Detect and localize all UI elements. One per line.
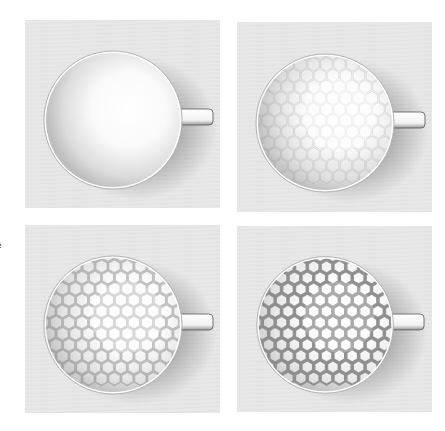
hex-cell bbox=[70, 350, 82, 363]
hex-cell bbox=[57, 260, 69, 274]
hex-cell bbox=[353, 360, 364, 373]
hex-cell bbox=[102, 248, 114, 261]
hex-cell bbox=[244, 305, 255, 318]
hex-cell bbox=[237, 136, 248, 149]
hex-cell bbox=[288, 46, 300, 59]
hex-cell bbox=[379, 114, 391, 127]
hex-cell bbox=[70, 282, 82, 296]
hex-cell bbox=[83, 282, 95, 296]
hex-cell bbox=[237, 159, 248, 172]
hex-cell bbox=[31, 305, 43, 319]
hex-cell bbox=[237, 249, 248, 262]
hex-cell bbox=[334, 35, 346, 48]
hex-cell bbox=[128, 361, 140, 374]
hex-cell bbox=[76, 361, 88, 374]
hex-cell bbox=[96, 237, 108, 250]
hex-cell bbox=[44, 237, 56, 250]
hex-cell bbox=[262, 46, 274, 59]
hex-cell bbox=[353, 69, 365, 82]
hex-cell bbox=[57, 305, 69, 319]
hex-cell bbox=[308, 170, 320, 183]
hex-cell bbox=[301, 69, 313, 82]
hex-cell bbox=[237, 360, 248, 373]
hex-cell bbox=[321, 58, 333, 72]
hex-cell bbox=[282, 103, 294, 117]
cup-panel-faint-hex bbox=[237, 22, 432, 212]
hex-cell bbox=[288, 69, 300, 82]
hex-cell bbox=[237, 271, 248, 284]
hex-cell bbox=[70, 327, 82, 341]
hex-cell bbox=[275, 114, 287, 127]
cup-illustration bbox=[237, 226, 432, 412]
hex-cell bbox=[295, 238, 306, 251]
hex-cell bbox=[25, 293, 36, 306]
hex-cell bbox=[327, 360, 338, 373]
hex-cell bbox=[102, 271, 114, 284]
hex-cell bbox=[288, 159, 300, 172]
hex-cell bbox=[83, 350, 95, 363]
hex-cell bbox=[360, 148, 372, 161]
hex-cell bbox=[115, 361, 127, 374]
hex-cell bbox=[122, 237, 134, 250]
hex-cell bbox=[269, 125, 281, 139]
hex-cell bbox=[321, 372, 332, 385]
hex-cell bbox=[31, 237, 43, 250]
hex-cell bbox=[295, 349, 306, 362]
hex-cell bbox=[37, 361, 49, 374]
hex-cell bbox=[237, 91, 248, 104]
hex-cell bbox=[295, 80, 307, 94]
hex-cell bbox=[89, 271, 101, 284]
hex-cell bbox=[295, 35, 307, 48]
hex-cell bbox=[25, 316, 36, 329]
hex-cell bbox=[37, 316, 49, 329]
hex-cell bbox=[346, 372, 357, 385]
hex-cell bbox=[257, 238, 268, 251]
hex-cell bbox=[314, 46, 326, 59]
hex-cell bbox=[249, 69, 261, 82]
hex-cell bbox=[269, 58, 281, 72]
hex-cell bbox=[263, 249, 274, 262]
hex-cell bbox=[379, 46, 391, 59]
hex-cell bbox=[122, 372, 134, 385]
hex-cell bbox=[269, 260, 280, 273]
hex-cell bbox=[359, 238, 370, 251]
hex-cell bbox=[141, 361, 153, 374]
hex-cell bbox=[372, 238, 383, 251]
hex-cell bbox=[334, 372, 345, 385]
hex-cell bbox=[89, 361, 101, 374]
hex-cell bbox=[282, 148, 294, 161]
hex-cell bbox=[76, 338, 88, 351]
hex-cell bbox=[96, 372, 108, 385]
hex-cell bbox=[295, 148, 307, 161]
hex-cell bbox=[289, 249, 300, 262]
hex-cell bbox=[31, 350, 43, 363]
hex-cell bbox=[301, 136, 313, 149]
hex-cell bbox=[243, 170, 255, 183]
hex-cell bbox=[31, 372, 43, 385]
hex-cell bbox=[57, 237, 69, 250]
hex-cell bbox=[44, 260, 56, 274]
hex-cell bbox=[244, 349, 255, 362]
hex-cell bbox=[301, 159, 313, 172]
hex-cell bbox=[76, 293, 88, 306]
hex-cell bbox=[109, 260, 121, 274]
hex-cell bbox=[257, 260, 268, 273]
hex-cell bbox=[83, 327, 95, 341]
hex-cell bbox=[256, 58, 268, 72]
hex-cell bbox=[366, 249, 377, 262]
hex-cell bbox=[244, 260, 255, 273]
hex-cell bbox=[340, 360, 351, 373]
hex-cell bbox=[102, 361, 114, 374]
hex-cell bbox=[366, 136, 378, 149]
hex-cell bbox=[244, 238, 255, 251]
hex-cell bbox=[174, 237, 186, 250]
highlight bbox=[303, 281, 374, 352]
hex-cell bbox=[109, 372, 121, 385]
hex-cell bbox=[282, 238, 293, 251]
hex-cell bbox=[256, 170, 268, 183]
hex-cell bbox=[237, 338, 248, 351]
hex-cell bbox=[366, 46, 378, 59]
hex-cell bbox=[288, 114, 300, 127]
hex-cell bbox=[63, 338, 75, 351]
hex-cell bbox=[314, 69, 326, 82]
